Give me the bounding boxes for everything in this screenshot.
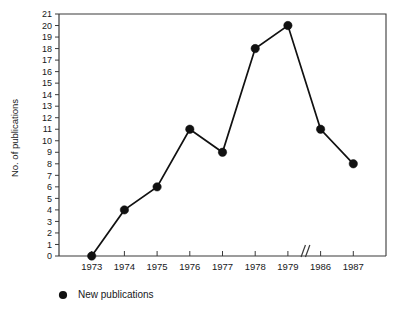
y-tick-label: 8 [47,159,52,169]
y-tick-label: 10 [42,136,52,146]
legend-label-new-publications: New publications [78,289,154,300]
y-tick-label: 3 [47,217,52,227]
y-tick-label: 1 [47,240,52,250]
chart-svg-canvas: 0123456789101112131415161718192021 19731… [0,0,413,310]
y-tick-label: 15 [42,78,52,88]
x-tick-label: 1977 [212,261,233,272]
y-axis-title: No. of publications [9,99,20,177]
data-point-marker [349,160,357,168]
x-tick-label: 1987 [343,261,364,272]
x-tick-label: 1975 [147,261,168,272]
data-point-marker [218,148,226,156]
y-tick-label: 19 [42,32,52,42]
x-tick-label: 1978 [245,261,266,272]
y-tick-label: 7 [47,171,52,181]
data-point-marker [88,252,96,260]
y-tick-label: 14 [42,90,52,100]
y-tick-label: 17 [42,55,52,65]
y-tick-label: 6 [47,182,52,192]
x-tick-label: 1979 [277,261,298,272]
x-tick-label: 1973 [81,261,102,272]
x-tick-label: 1976 [179,261,200,272]
data-point-marker [120,206,128,214]
y-tick-label: 9 [47,147,52,157]
x-tick-label: 1986 [310,261,331,272]
data-point-marker [153,183,161,191]
x-tick-label: 1974 [114,261,135,272]
data-point-marker [284,21,292,29]
y-tick-label: 2 [47,228,52,238]
y-tick-label: 16 [42,67,52,77]
data-point-marker [316,125,324,133]
y-tick-label: 21 [42,9,52,19]
legend-marker-icon [59,291,67,299]
publications-line-chart: 0123456789101112131415161718192021 19731… [0,0,413,310]
data-point-marker [251,44,259,52]
y-tick-label: 0 [47,251,52,261]
y-tick-label: 11 [43,124,52,134]
y-tick-label: 18 [42,44,52,54]
y-tick-label: 4 [47,205,52,215]
y-tick-label: 5 [47,194,52,204]
y-tick-label: 20 [42,21,52,31]
y-tick-label: 13 [42,101,52,111]
data-point-marker [186,125,194,133]
y-tick-label: 12 [42,113,52,123]
